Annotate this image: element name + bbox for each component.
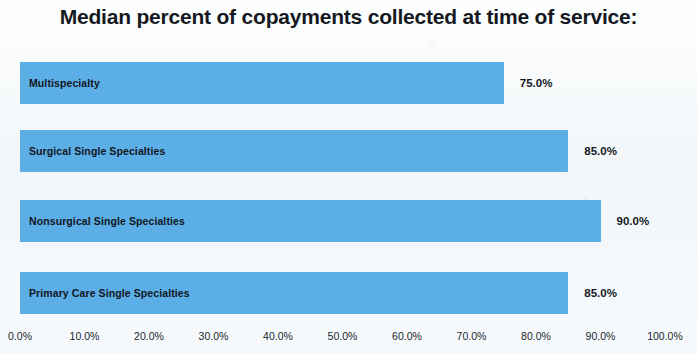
bar-value-label: 75.0% <box>520 62 553 104</box>
x-axis: 0.0%10.0%20.0%30.0%40.0%50.0%60.0%70.0%8… <box>0 330 697 354</box>
plot-area: Multispecialty75.0%Surgical Single Speci… <box>0 58 697 320</box>
bar-row: Surgical Single Specialties85.0% <box>0 130 697 172</box>
x-axis-tick-label: 20.0% <box>134 330 164 342</box>
x-axis-tick-label: 40.0% <box>263 330 293 342</box>
x-axis-tick-label: 70.0% <box>457 330 487 342</box>
x-axis-tick-label: 90.0% <box>586 330 616 342</box>
bar-category-label: Multispecialty <box>29 62 100 104</box>
x-axis-tick-label: 0.0% <box>8 330 32 342</box>
x-axis-tick-label: 30.0% <box>199 330 229 342</box>
bar-category-label: Nonsurgical Single Specialties <box>29 200 185 242</box>
bar-row: Primary Care Single Specialties85.0% <box>0 272 697 314</box>
x-axis-tick-label: 100.0% <box>647 330 683 342</box>
bar-category-label: Surgical Single Specialties <box>29 130 165 172</box>
bar-chart: Median percent of copayments collected a… <box>0 0 697 354</box>
x-axis-tick-label: 10.0% <box>70 330 100 342</box>
x-axis-tick-label: 80.0% <box>521 330 551 342</box>
x-axis-tick-label: 50.0% <box>328 330 358 342</box>
chart-title: Median percent of copayments collected a… <box>40 4 657 30</box>
bar-value-label: 90.0% <box>617 200 650 242</box>
bar-value-label: 85.0% <box>584 130 617 172</box>
bar-value-label: 85.0% <box>584 272 617 314</box>
x-axis-tick-label: 60.0% <box>392 330 422 342</box>
bar-row: Nonsurgical Single Specialties90.0% <box>0 200 697 242</box>
bar-category-label: Primary Care Single Specialties <box>29 272 190 314</box>
bar-row: Multispecialty75.0% <box>0 62 697 104</box>
